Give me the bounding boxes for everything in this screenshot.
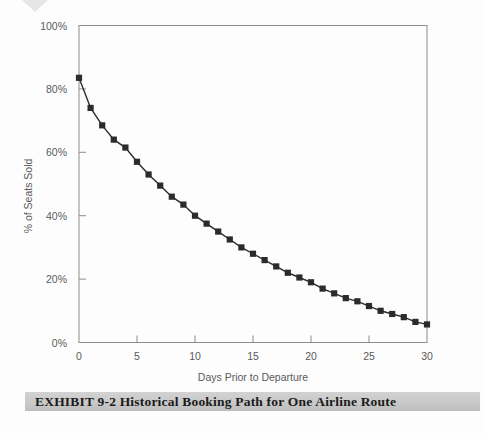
x-tick-label: 20: [305, 350, 317, 362]
data-point-marker: [215, 228, 221, 234]
exhibit-caption-band: EXHIBIT 9-2 Historical Booking Path for …: [25, 392, 480, 411]
x-axis-ticks: [137, 336, 369, 343]
data-point-marker: [76, 75, 82, 81]
data-point-marker: [146, 171, 152, 177]
y-axis-title: % of Seats Sold: [22, 158, 34, 233]
x-tick-label: 0: [76, 350, 82, 362]
x-tick-label: 10: [189, 350, 201, 362]
data-point-marker: [134, 159, 140, 165]
y-axis-ticks: [79, 89, 86, 279]
data-point-marker: [99, 122, 105, 128]
data-point-marker: [296, 274, 302, 280]
data-point-marker: [227, 236, 233, 242]
data-point-marker: [192, 213, 198, 219]
data-point-marker: [389, 311, 395, 317]
y-tick-label: 80%: [46, 83, 67, 95]
x-tick-label: 15: [247, 350, 259, 362]
data-point-marker: [204, 221, 210, 227]
data-point-marker: [331, 290, 337, 296]
chart-svg: 0%20%40%60%80%100% 051015202530 Days Pri…: [0, 0, 486, 390]
y-tick-label: 40%: [46, 210, 67, 222]
x-tick-label: 25: [363, 350, 375, 362]
booking-curve-markers: [76, 75, 430, 328]
data-point-marker: [354, 298, 360, 304]
data-point-marker: [111, 137, 117, 143]
data-point-marker: [88, 105, 94, 111]
data-point-marker: [180, 202, 186, 208]
x-tick-label: 5: [134, 350, 140, 362]
plot-border: [79, 26, 427, 343]
data-point-marker: [122, 144, 128, 150]
data-point-marker: [285, 270, 291, 276]
x-axis-tick-labels: 051015202530: [76, 350, 433, 362]
data-point-marker: [366, 303, 372, 309]
data-point-marker: [273, 263, 279, 269]
y-tick-label: 20%: [46, 273, 67, 285]
data-point-marker: [412, 319, 418, 325]
data-point-marker: [157, 182, 163, 188]
data-point-marker: [169, 194, 175, 200]
plot-frame: [79, 26, 427, 343]
data-point-marker: [343, 295, 349, 301]
data-point-marker: [424, 321, 430, 327]
booking-path-chart: 0%20%40%60%80%100% 051015202530 Days Pri…: [0, 0, 486, 390]
y-tick-label: 0%: [52, 337, 67, 349]
x-axis-title: Days Prior to Departure: [198, 371, 308, 383]
data-point-marker: [401, 314, 407, 320]
x-tick-label: 30: [421, 350, 433, 362]
y-tick-label: 100%: [40, 20, 67, 32]
data-point-marker: [378, 308, 384, 314]
y-tick-label: 60%: [46, 146, 67, 158]
exhibit-page: 0%20%40%60%80%100% 051015202530 Days Pri…: [0, 0, 486, 433]
data-point-marker: [308, 279, 314, 285]
data-point-marker: [320, 286, 326, 292]
y-axis-tick-labels: 0%20%40%60%80%100%: [40, 20, 67, 349]
exhibit-caption-text: EXHIBIT 9-2 Historical Booking Path for …: [25, 394, 396, 410]
data-point-marker: [238, 244, 244, 250]
booking-curve-line: [79, 78, 427, 325]
data-point-marker: [262, 257, 268, 263]
data-point-marker: [250, 251, 256, 257]
